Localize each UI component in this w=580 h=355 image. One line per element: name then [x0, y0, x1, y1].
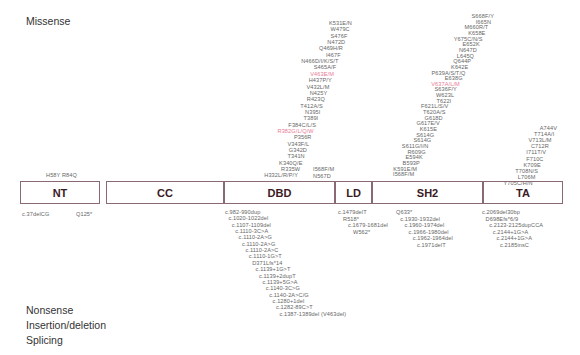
domain-dbd: DBD: [224, 181, 335, 204]
mutation-label: c.1479delT: [338, 209, 367, 216]
mutation-label: R518*: [343, 216, 359, 223]
mutation-label: H332L/R/P/Y: [264, 172, 298, 179]
mutation-label: c.2069del30bp: [482, 209, 520, 216]
domain-nt-label: NT: [53, 187, 68, 199]
ld-missense-label: N567D: [313, 173, 331, 180]
domain-nt: NT: [20, 181, 100, 204]
mutation-label: D698Efs*6/9: [486, 216, 519, 223]
section-title-nonsense: Nonsense: [26, 303, 73, 318]
domain-sh2-label: SH2: [417, 187, 438, 199]
ld-missense-label: I568F/M: [313, 166, 334, 173]
mutation-label: c.1679-1681del: [348, 222, 388, 229]
mutation-label: I568F/M: [393, 171, 414, 178]
mutation-label: W562*: [353, 229, 370, 236]
nt-missense-label: H58Y R84Q: [46, 172, 77, 179]
mutation-label: c.1971delT: [417, 242, 446, 249]
mutation-label: c.2144+1G>A: [496, 235, 532, 242]
domain-ta: TA: [483, 181, 563, 204]
nt-below-label: Q125*: [76, 211, 92, 218]
domain-ta-label: TA: [516, 187, 530, 199]
mutation-label: c.2185insC: [500, 242, 529, 249]
domain-cc: CC: [106, 181, 224, 204]
domain-ld-label: LD: [346, 187, 361, 199]
mutation-label: c.2123-2125dupCCA: [489, 222, 543, 229]
section-title-indel: Insertion/deletion: [26, 318, 106, 333]
mutation-label: c.1387-1389del (V463del): [279, 311, 346, 318]
domain-cc-label: CC: [157, 187, 173, 199]
section-title-splicing: Splicing: [26, 333, 63, 348]
domain-sh2: SH2: [372, 181, 483, 204]
nt-below-label: c.37delCG: [22, 211, 49, 218]
mutation-label: c.2144+1G>A: [493, 229, 529, 236]
section-title-missense: Missense: [26, 14, 70, 29]
domain-ld: LD: [335, 181, 372, 204]
domain-dbd-label: DBD: [268, 187, 292, 199]
